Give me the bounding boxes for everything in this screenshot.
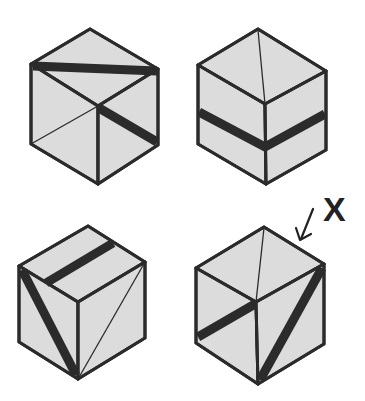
- cube-d: [196, 227, 324, 384]
- answer-marker: X: [296, 190, 346, 240]
- cube-c: [19, 226, 145, 379]
- marker-label: X: [323, 190, 346, 228]
- cube-a-top-band: [33, 66, 157, 71]
- cube-b: [198, 29, 326, 184]
- cube-puzzle-figure: X: [0, 0, 365, 401]
- cube-d-front-edge: [256, 302, 258, 384]
- cube-a: [31, 29, 158, 184]
- cube-b-front-edge: [265, 104, 266, 184]
